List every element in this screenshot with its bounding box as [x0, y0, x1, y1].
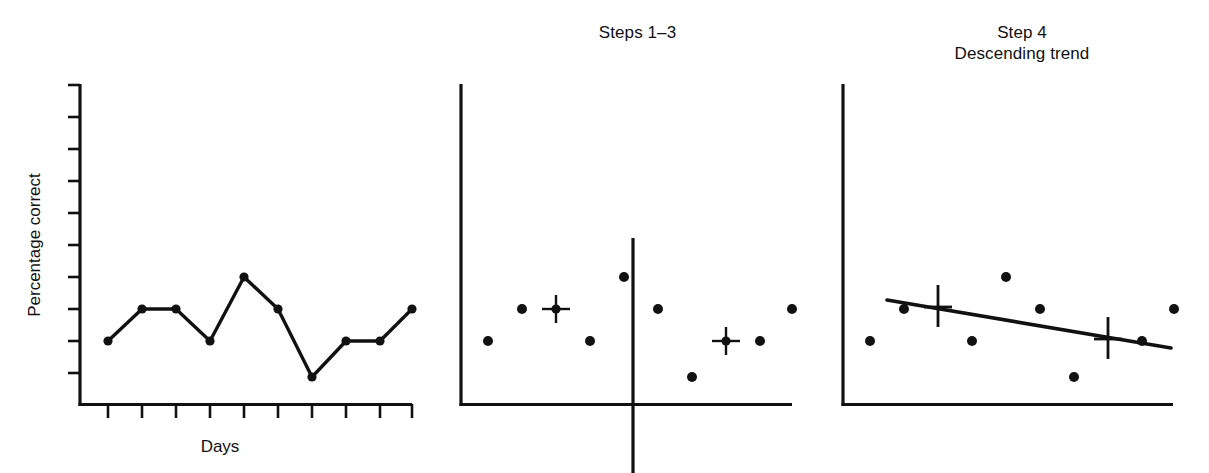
data-point [967, 336, 977, 346]
data-point [341, 336, 350, 345]
data-point [619, 272, 629, 282]
data-point [585, 336, 595, 346]
data-point [103, 336, 112, 345]
y-axis-label: Percentage correct [25, 150, 45, 340]
panel-percentage-correct-line: Percentage correct Days [0, 0, 440, 473]
median-marker-second-half [712, 327, 740, 355]
data-point [899, 304, 909, 314]
data-point [687, 372, 697, 382]
median-marker-second-half [1094, 317, 1122, 359]
data-point [1069, 372, 1079, 382]
panel-3-plot [835, 0, 1209, 473]
data-point [375, 336, 384, 345]
data-point-markers [103, 272, 416, 381]
data-point [273, 304, 282, 313]
data-point [1137, 336, 1147, 346]
panel-1-plot [0, 0, 440, 473]
data-point [483, 336, 493, 346]
median-marker-first-half [924, 285, 952, 327]
y-axis-ticks [68, 85, 80, 373]
data-point [653, 304, 663, 314]
data-point [787, 304, 797, 314]
data-point [137, 304, 146, 313]
data-point [1035, 304, 1045, 314]
panel-steps-1-3: Steps 1–3 [440, 0, 835, 473]
figure-three-panel-celeration-chart: Percentage correct Days Steps 1–3 [0, 0, 1209, 473]
x-axis-label: Days [0, 437, 440, 457]
data-point [1001, 272, 1011, 282]
data-point [407, 304, 416, 313]
data-point [171, 304, 180, 313]
panel-step-4-descending-trend: Step 4 Descending trend [835, 0, 1209, 473]
data-point-markers [483, 272, 797, 382]
data-point [205, 336, 214, 345]
panel-2-plot [440, 0, 835, 473]
data-point [865, 336, 875, 346]
data-point [307, 372, 316, 381]
data-point [1169, 304, 1179, 314]
data-line-series [108, 277, 412, 377]
median-marker-first-half [542, 295, 570, 323]
data-point-markers [865, 272, 1179, 382]
data-point [755, 336, 765, 346]
data-point [239, 272, 248, 281]
data-point [517, 304, 527, 314]
